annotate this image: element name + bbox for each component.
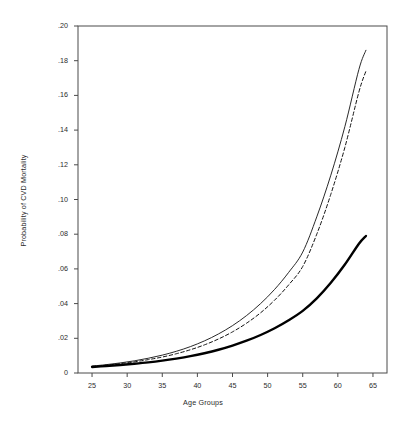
- plot-frame: [78, 26, 387, 373]
- x-tick-label: 40: [177, 381, 217, 390]
- x-tick-label: 30: [107, 381, 147, 390]
- x-tick-label: 65: [353, 381, 393, 390]
- y-tick-label: .02: [28, 333, 68, 342]
- x-tick-label: 60: [318, 381, 358, 390]
- y-tick-label: 0: [28, 368, 68, 377]
- thin-solid-curve: [92, 50, 366, 366]
- x-tick-label: 55: [283, 381, 323, 390]
- dashed-curve: [92, 71, 366, 366]
- chart-figure: Probability of CVD Mortality Age Groups …: [0, 0, 406, 431]
- y-tick-label: .12: [28, 160, 68, 169]
- y-tick-label: .18: [28, 56, 68, 65]
- x-tick-label: 50: [248, 381, 288, 390]
- x-tick-label: 45: [213, 381, 253, 390]
- data-series: [92, 50, 366, 367]
- y-tick-label: .14: [28, 125, 68, 134]
- y-tick-label: .20: [28, 21, 68, 30]
- y-tick-label: .08: [28, 229, 68, 238]
- thick-solid-curve: [92, 236, 366, 367]
- x-tick-label: 25: [72, 381, 112, 390]
- y-tick-label: .06: [28, 264, 68, 273]
- y-tick-label: .10: [28, 195, 68, 204]
- y-tick-label: .16: [28, 90, 68, 99]
- y-tick-label: .04: [28, 299, 68, 308]
- x-tick-label: 35: [142, 381, 182, 390]
